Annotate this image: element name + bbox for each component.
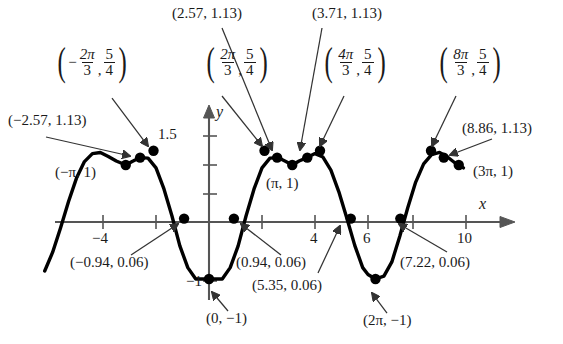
- comma: ,: [471, 63, 475, 79]
- marked-point: [315, 146, 325, 156]
- y-axis-arrowhead: [204, 105, 215, 118]
- fraction-denominator: 3: [222, 62, 234, 78]
- fraction-numerator: 5: [244, 47, 256, 62]
- label-point-3pi-1: (3π, 1): [473, 164, 513, 179]
- fraction-numerator: 5: [362, 47, 374, 62]
- y-tick-label--1: −1: [186, 274, 202, 289]
- marked-point: [179, 213, 189, 223]
- fraction-denominator: 4: [244, 62, 256, 78]
- marked-point: [148, 146, 158, 156]
- x-tick-label-10: 10: [457, 231, 472, 246]
- paren-close: ): [119, 46, 127, 79]
- y-axis: [203, 105, 217, 300]
- marked-point: [204, 274, 214, 284]
- label-8pi-over-3-5-over-4: ( 8π 3 , 5 4 ): [437, 46, 503, 79]
- label-neg-2pi-over-3-5-over-4: ( − 2π 3 , 5 4 ): [55, 46, 129, 79]
- label-point--2.57-1.13: (−2.57, 1.13): [8, 113, 86, 128]
- marked-point: [121, 160, 131, 170]
- leader-3.71: [300, 28, 322, 150]
- x-axis-name: x: [479, 196, 486, 212]
- paren-close: ): [259, 46, 267, 79]
- fraction-2pi-3: 2π 3: [78, 47, 97, 79]
- marked-point: [370, 274, 380, 284]
- fraction-denominator: 4: [104, 62, 116, 78]
- marked-point: [395, 213, 405, 223]
- comma: ,: [98, 63, 102, 79]
- marked-point: [135, 152, 145, 162]
- label-point-3.71-1.13: (3.71, 1.13): [312, 6, 382, 21]
- paren-open: (: [58, 46, 66, 79]
- leader-0.94: [241, 224, 281, 255]
- fraction-denominator: 4: [362, 62, 374, 78]
- paren-close: ): [377, 46, 385, 79]
- marked-point: [287, 160, 297, 170]
- marked-point: [346, 213, 356, 223]
- marked-point: [229, 213, 239, 223]
- leader-2pi3: [222, 96, 262, 146]
- x-axis: [55, 215, 515, 229]
- y-axis-name: y: [216, 104, 223, 120]
- leader-0--1: [212, 292, 228, 311]
- marked-point: [259, 146, 269, 156]
- label-4pi-over-3-5-over-4: ( 4π 3 , 5 4 ): [322, 46, 388, 79]
- x-tick-label-4: 4: [310, 231, 318, 246]
- fraction-denominator: 4: [477, 62, 489, 78]
- fraction-denominator: 3: [340, 62, 352, 78]
- leader-8pi3: [432, 96, 456, 146]
- marked-point: [439, 152, 449, 162]
- label-point-0--1: (0, −1): [206, 311, 247, 326]
- comma: ,: [238, 63, 242, 79]
- fraction-denominator: 3: [82, 62, 94, 78]
- fraction-numerator: 5: [477, 47, 489, 62]
- leader--2.57: [46, 137, 130, 156]
- leader-7.22: [399, 224, 447, 252]
- fraction-8pi-3: 8π 3: [451, 47, 470, 79]
- fraction-numerator: 4π: [336, 47, 355, 62]
- marked-point: [272, 152, 282, 162]
- fraction-5-4: 5 4: [477, 47, 489, 79]
- comma: ,: [356, 63, 360, 79]
- fraction-denominator: 3: [455, 62, 467, 78]
- label-point-7.22-0.06: (7.22, 0.06): [400, 255, 470, 270]
- label-point-2.57-1.13: (2.57, 1.13): [172, 6, 242, 21]
- y-tick-label-1.5: 1.5: [158, 127, 177, 142]
- x-axis-arrowhead: [500, 217, 515, 228]
- fraction-numerator: 5: [104, 47, 116, 62]
- label-point-2pi--1: (2π, −1): [363, 313, 412, 328]
- label-2pi-over-3-5-over-4: ( 2π 3 , 5 4 ): [204, 46, 270, 79]
- label-point-8.86-1.13: (8.86, 1.13): [462, 121, 532, 136]
- fraction-5-4: 5 4: [362, 47, 374, 79]
- label-point--pi-1: (−π, 1): [55, 165, 96, 180]
- marked-point: [302, 152, 312, 162]
- marked-point: [426, 146, 436, 156]
- minus-sign: −: [68, 55, 76, 70]
- label-point-pi-1: (π, 1): [266, 176, 299, 191]
- fraction-5-4: 5 4: [104, 47, 116, 79]
- paren-open: (: [440, 46, 448, 79]
- graph-figure: ( − 2π 3 , 5 4 ) ( 2π 3 , 5 4 ) ( 4π 3 ,: [0, 0, 563, 344]
- leader-4pi3: [320, 96, 344, 146]
- paren-open: (: [325, 46, 333, 79]
- leader-2pi--1: [372, 293, 387, 313]
- fraction-4pi-3: 4π 3: [336, 47, 355, 79]
- paren-close: ): [492, 46, 500, 79]
- fraction-5-4: 5 4: [244, 47, 256, 79]
- paren-open: (: [207, 46, 215, 79]
- fraction-numerator: 8π: [451, 47, 470, 62]
- x-tick-label-6: 6: [363, 231, 371, 246]
- label-point-0.94-0.06: (0.94, 0.06): [236, 255, 306, 270]
- label-point-5.35-0.06: (5.35, 0.06): [252, 278, 322, 293]
- leader-8.86: [450, 139, 492, 155]
- marked-point: [454, 160, 464, 170]
- leader-5.35: [318, 226, 340, 273]
- x-tick-label--4: −4: [92, 231, 108, 246]
- fraction-numerator: 2π: [218, 47, 237, 62]
- fraction-2pi-3: 2π 3: [218, 47, 237, 79]
- fraction-numerator: 2π: [78, 47, 97, 62]
- leader--2pi3: [112, 98, 148, 146]
- leader--0.94: [131, 224, 178, 255]
- label-point--0.94-0.06: (−0.94, 0.06): [70, 255, 148, 270]
